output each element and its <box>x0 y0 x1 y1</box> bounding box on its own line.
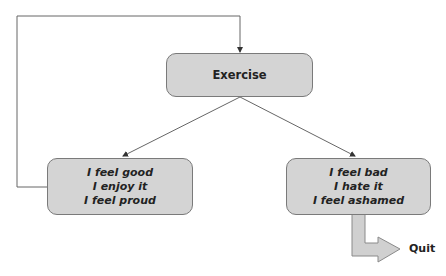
positive-feelings-node: I feel good I enjoy it I feel proud <box>47 158 193 215</box>
positive-line-1: I feel good <box>87 166 153 180</box>
negative-line-1: I feel bad <box>329 166 387 180</box>
negative-line-3: I feel ashamed <box>313 194 404 208</box>
exercise-to-negative-arrow <box>240 97 355 156</box>
exercise-to-positive-arrow <box>123 97 240 156</box>
negative-line-2: I hate it <box>334 180 383 194</box>
exercise-node: Exercise <box>166 53 313 97</box>
quit-label: Quit <box>409 242 435 255</box>
positive-line-3: I feel proud <box>84 194 156 208</box>
negative-feelings-node: I feel bad I hate it I feel ashamed <box>286 158 431 215</box>
exercise-label: Exercise <box>212 68 266 82</box>
quit-arrow-icon <box>352 214 400 262</box>
connector-layer <box>0 0 446 276</box>
positive-line-2: I enjoy it <box>93 180 148 194</box>
